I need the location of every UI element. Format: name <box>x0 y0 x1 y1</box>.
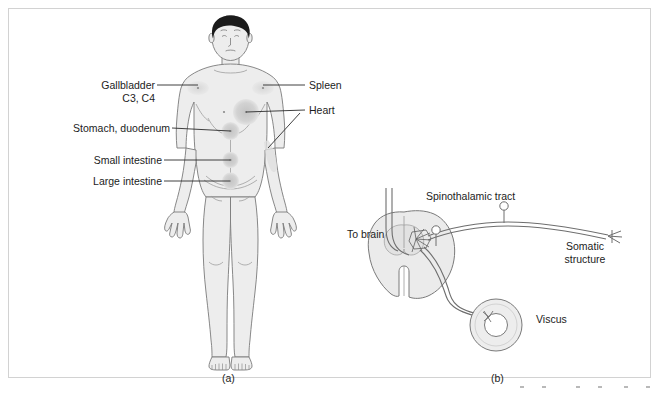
label-somatic-structure-line1: Somatic <box>566 240 604 252</box>
caption-panel-b: (b) <box>491 372 504 384</box>
label-to-brain: To brain <box>347 228 384 241</box>
somatic-ganglion-cell-body <box>500 202 508 223</box>
label-somatic-structure-line2: structure <box>565 253 606 265</box>
caption-panel-a: (a) <box>222 372 235 384</box>
label-viscus: Viscus <box>536 313 567 326</box>
label-spinothalamic-tract: Spinothalamic tract <box>426 190 515 203</box>
bottom-dot-marks <box>520 386 650 390</box>
spinal-cord-section <box>368 211 454 299</box>
panel-b-spinal-diagram <box>0 0 659 394</box>
figure-root: GallbladderC3, C4 Stomach, duodenum Smal… <box>0 0 659 394</box>
viscus-torus <box>470 299 522 351</box>
label-somatic-structure: Somaticstructure <box>552 240 618 265</box>
somatic-afferent-fiber <box>428 222 608 240</box>
